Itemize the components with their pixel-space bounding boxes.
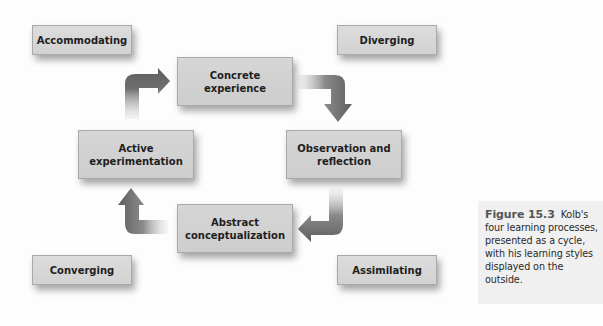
style-label: Diverging	[360, 34, 415, 47]
arrow-to-active-experimentation-icon	[118, 188, 168, 234]
process-label-line1: Abstract	[185, 216, 285, 229]
style-label: Converging	[50, 264, 114, 277]
process-label-line1: Concrete	[204, 69, 266, 82]
caption-line: four learning processes,	[485, 221, 603, 234]
process-label-line1: Active	[89, 142, 183, 155]
caption-line: outside.	[485, 273, 603, 286]
figure-caption: Figure 15.3 Kolb's four learning process…	[478, 201, 603, 304]
figure-number: Figure 15.3	[485, 208, 555, 221]
process-abstract-conceptualization: Abstract conceptualization	[177, 204, 293, 253]
caption-line-1: Figure 15.3 Kolb's	[485, 208, 603, 221]
arrow-to-concrete-experience-icon	[125, 68, 170, 119]
process-label-line2: reflection	[297, 155, 390, 168]
style-assimilating: Assimilating	[337, 255, 437, 285]
process-label-line2: experience	[204, 82, 266, 95]
caption-line: presented as a cycle,	[485, 234, 603, 247]
style-converging: Converging	[32, 255, 132, 285]
style-label: Accommodating	[37, 34, 128, 47]
process-label-line2: conceptualization	[185, 229, 285, 242]
arrow-to-observation-icon	[298, 75, 352, 122]
process-observation-reflection: Observation and reflection	[286, 130, 402, 179]
process-concrete-experience: Concrete experience	[177, 57, 293, 106]
style-diverging: Diverging	[337, 25, 437, 55]
process-label-line1: Observation and	[297, 142, 390, 155]
arrow-to-abstract-conceptualization-icon	[298, 188, 343, 242]
process-label-line2: experimentation	[89, 155, 183, 168]
caption-line-1-rest: Kolb's	[561, 209, 588, 220]
style-label: Assimilating	[352, 264, 422, 277]
process-active-experimentation: Active experimentation	[78, 130, 194, 179]
style-accommodating: Accommodating	[32, 25, 132, 55]
caption-line: displayed on the	[485, 260, 603, 273]
caption-line: with his learning styles	[485, 247, 603, 260]
